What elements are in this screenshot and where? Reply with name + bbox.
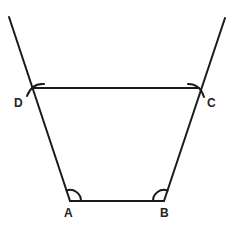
point-label-C: C <box>207 97 216 109</box>
point-label-A: A <box>64 207 73 219</box>
trapezium-diagram <box>0 0 236 229</box>
point-label-D: D <box>14 97 23 109</box>
point-label-B: B <box>160 207 169 219</box>
